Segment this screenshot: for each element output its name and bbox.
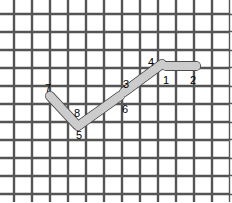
weave-vertical-strip xyxy=(69,0,86,32)
weave-vertical-strip-body xyxy=(51,0,68,14)
weave-vertical-strip xyxy=(141,0,158,32)
weave-vertical-strip xyxy=(141,177,158,203)
weave-vertical-strip-body xyxy=(141,0,158,32)
weave-vertical-strip-body xyxy=(177,177,194,203)
weave-vertical-strip xyxy=(0,0,14,32)
weave-vertical-strip-body xyxy=(159,195,176,203)
weave-vertical-strip xyxy=(177,0,194,32)
weave-vertical-strip-body xyxy=(0,177,14,203)
weave-vertical-strip xyxy=(195,195,212,203)
weave-vertical-strip xyxy=(15,195,32,203)
vertex-label-8: 8 xyxy=(74,107,80,119)
weave-vertical-strip-body xyxy=(123,0,140,14)
weave-vertical-strip-body xyxy=(69,0,86,32)
weave-vertical-strip xyxy=(105,0,122,32)
weave-diagram: 21436587 xyxy=(0,0,232,202)
weave-vertical-strip-body xyxy=(105,0,122,32)
weave-vertical-strip-body xyxy=(87,0,104,14)
weave-vertical-strip xyxy=(33,0,50,32)
weave-vertical-strip-body xyxy=(87,195,104,203)
weave-vertical-strip-body xyxy=(213,177,230,203)
weave-vertical-strip xyxy=(177,177,194,203)
weave-vertical-strip-body xyxy=(51,195,68,203)
weave-vertical-strip-body xyxy=(123,195,140,203)
weave-vertical-strip xyxy=(159,195,176,203)
vertex-label-3: 3 xyxy=(123,78,129,90)
weave-vertical-strip xyxy=(123,0,140,14)
weave-vertical-strip-body xyxy=(141,177,158,203)
weave-vertical-strip-body xyxy=(159,0,176,14)
weave-vertical-strip-body xyxy=(213,0,230,32)
weave-vertical-strip-body xyxy=(15,195,32,203)
weave-vertical-strip-body xyxy=(69,177,86,203)
weave-vertical-strip xyxy=(213,177,230,203)
weave-vertical-strip-body xyxy=(0,0,14,32)
weave-vertical-strip xyxy=(33,177,50,203)
weave-vertical-strip-body xyxy=(177,0,194,32)
vertex-label-2: 2 xyxy=(190,74,196,86)
weave-vertical-strip-body xyxy=(33,177,50,203)
weave-vertical-strip xyxy=(69,177,86,203)
weave-vertical-strip xyxy=(51,195,68,203)
weave-vertical-strip-body xyxy=(15,0,32,14)
weave-vertical-strip xyxy=(159,0,176,14)
vertex-label-5: 5 xyxy=(76,129,82,141)
weave-vertical-strip xyxy=(87,0,104,14)
weave-vertical-strip-body xyxy=(195,0,212,14)
weave-diagram-canvas: 21436587 xyxy=(0,0,232,202)
weave-vertical-strip-body xyxy=(33,0,50,32)
weave-vertical-strip xyxy=(87,195,104,203)
weave-vertical-strip-body xyxy=(195,195,212,203)
vertex-label-6: 6 xyxy=(122,103,128,115)
weave-vertical-strip xyxy=(105,177,122,203)
weave-vertical-strip xyxy=(123,195,140,203)
weave-vertical-strip xyxy=(51,0,68,14)
weave-vertical-strip xyxy=(0,177,14,203)
weave-vertical-strip xyxy=(15,0,32,14)
weave-vertical-strip xyxy=(195,0,212,14)
vertex-label-1: 1 xyxy=(163,74,169,86)
weave-vertical-strip-body xyxy=(105,177,122,203)
weave-vertical-strip xyxy=(213,0,230,32)
vertex-label-7: 7 xyxy=(45,82,51,94)
vertex-label-4: 4 xyxy=(148,56,154,68)
